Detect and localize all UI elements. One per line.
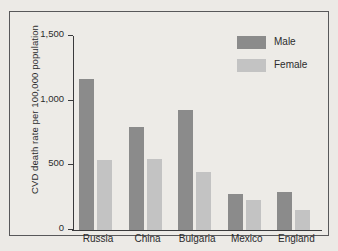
bar-mexico-female	[246, 200, 261, 230]
bar-china-male	[129, 127, 144, 230]
legend-swatch-male	[237, 36, 266, 49]
bar-russia-male	[79, 79, 94, 230]
x-axis-line	[72, 230, 322, 231]
bar-england-male	[277, 192, 292, 230]
legend-swatch-female	[237, 59, 266, 72]
legend-label: Male	[274, 36, 296, 47]
y-axis-tick-label: 1,000	[40, 93, 64, 104]
chart-frame: CVD death rate per 100,000 population 05…	[9, 11, 329, 236]
bar-russia-female	[97, 160, 112, 230]
bar-group: Russia	[73, 36, 123, 230]
y-axis-tick-label: 0	[59, 222, 64, 233]
legend-label: Female	[274, 59, 307, 70]
figure-canvas: CVD death rate per 100,000 population 05…	[0, 0, 338, 251]
bar-group: China	[123, 36, 173, 230]
bar-group: Bulgaria	[172, 36, 222, 230]
y-axis-tick-label: 500	[48, 157, 64, 168]
bar-england-female	[295, 210, 310, 230]
bar-bulgaria-female	[196, 172, 211, 230]
y-axis-title: CVD death rate per 100,000 population	[29, 10, 40, 210]
y-axis-tick-label: 1,500	[40, 28, 64, 39]
bar-mexico-male	[228, 194, 243, 230]
bar-china-female	[147, 159, 162, 230]
x-axis-category-label: England	[265, 233, 327, 244]
bar-bulgaria-male	[178, 110, 193, 230]
